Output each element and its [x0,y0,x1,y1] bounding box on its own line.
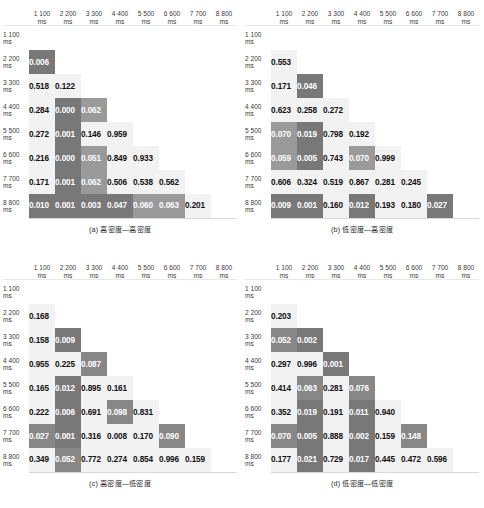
row-header-3: 4 400ms [245,352,271,376]
matrix-cell-blank [453,328,479,352]
col-header-6-unit: ms [185,18,211,25]
matrix-cell-blank [159,122,185,146]
col-header-4-num: 5 500 [380,10,397,17]
matrix-cell-value: 0.060 [133,194,159,218]
matrix-cell-value: 0.076 [349,376,375,400]
col-header-6-num: 7 700 [432,10,449,17]
matrix-cell-blank [29,26,55,51]
col-header-0-unit: ms [271,272,297,279]
matrix-cell-blank [271,26,297,51]
matrix-cell-blank [211,26,237,51]
row-header-2-unit: ms [245,86,271,93]
matrix-cell-blank [427,50,453,74]
matrix-cell-blank [159,376,185,400]
matrix-d-body: 1 100ms2 200ms0.2033 300ms0.0520.0024 40… [245,280,479,473]
matrix-cell-blank [349,74,375,98]
matrix-row: 8 800ms0.0090.0010.1600.0120.1930.1800.0… [245,194,479,218]
matrix-cell-value: 0.940 [375,400,401,424]
col-header-3: 4 400ms [349,258,375,280]
matrix-cell-blank [133,50,159,74]
row-header-2-num: 3 300 [245,79,262,86]
matrix-row: 6 600ms0.2220.0060.6910.0980.831 [3,400,237,424]
col-header-6: 7 700ms [427,4,453,26]
row-header-7-unit: ms [3,206,29,213]
matrix-row: 7 700ms0.0270.0010.3160.0080.1700.090 [3,424,237,448]
row-header-2-num: 3 300 [3,333,20,340]
matrix-cell-value: 0.002 [297,328,323,352]
matrix-cell-blank [453,424,479,448]
matrix-cell-blank [453,352,479,376]
matrix-cell-blank [349,50,375,74]
matrix-cell-value: 0.009 [271,194,297,218]
matrix-cell-blank [211,352,237,376]
row-header-5-num: 6 600 [245,405,262,412]
matrix-row: 8 800ms0.1770.0210.7290.0170.4450.4720.5… [245,448,479,472]
matrix-cell-blank [427,98,453,122]
col-header-7-unit: ms [453,18,479,25]
col-header-4: 5 500ms [375,258,401,280]
row-header-2: 3 300ms [3,74,29,98]
col-header-0: 1 100ms [29,4,55,26]
matrix-cell-blank [349,98,375,122]
matrix-cell-value: 0.063 [297,376,323,400]
matrix-cell-blank [401,352,427,376]
matrix-cell-blank [401,26,427,51]
matrix-cell-blank [185,376,211,400]
matrix-cell-blank [211,98,237,122]
matrix-cell-blank [55,26,81,51]
matrix-cell-value: 0.596 [427,448,453,472]
row-header-6-unit: ms [245,182,271,189]
panel-c: 1 100ms 2 200ms 3 300ms 4 400ms 5 500ms … [0,254,242,508]
matrix-cell-blank [401,74,427,98]
matrix-row: 8 800ms0.0100.0010.0030.0470.0600.0630.2… [3,194,237,218]
row-header-3-num: 4 400 [3,357,20,364]
matrix-cell-value: 0.867 [349,170,375,194]
matrix-cell-blank [453,400,479,424]
col-header-1: 2 200ms [55,4,81,26]
row-header-4: 5 500ms [3,376,29,400]
row-header-3-unit: ms [3,110,29,117]
matrix-cell-value: 0.729 [323,448,349,472]
col-header-5-num: 6 600 [406,264,423,271]
matrix-cell-value: 0.281 [323,376,349,400]
col-header-3-num: 4 400 [112,264,129,271]
col-header-4-unit: ms [133,272,159,279]
col-header-4: 5 500ms [133,4,159,26]
matrix-cell-blank [453,280,479,305]
matrix-cell-blank [185,328,211,352]
matrix-cell-blank [107,50,133,74]
matrix-cell-blank [375,304,401,328]
col-header-2-num: 3 300 [328,264,345,271]
matrix-cell-value: 0.854 [133,448,159,472]
matrix-cell-value: 0.070 [349,146,375,170]
matrix-cell-value: 0.005 [297,424,323,448]
matrix-cell-blank [159,400,185,424]
matrix-cell-blank [375,26,401,51]
col-header-7: 8 800ms [211,258,237,280]
matrix-cell-value: 0.006 [29,50,55,74]
matrix-cell-blank [323,328,349,352]
matrix-cell-value: 0.159 [185,448,211,472]
matrix-cell-blank [375,328,401,352]
row-header-5-unit: ms [3,158,29,165]
col-header-5-unit: ms [401,18,427,25]
matrix-cell-value: 0.010 [29,194,55,218]
panel-d: 1 100ms 2 200ms 3 300ms 4 400ms 5 500ms … [242,254,484,508]
matrix-cell-blank [427,170,453,194]
matrix-row: 1 100ms [245,280,479,305]
col-header-6-num: 7 700 [190,10,207,17]
matrix-a: 1 100ms 2 200ms 3 300ms 4 400ms 5 500ms … [3,4,237,219]
col-header-4-num: 5 500 [138,264,155,271]
matrix-cell-value: 0.180 [401,194,427,218]
matrix-cell-blank [427,352,453,376]
matrix-cell-blank [159,352,185,376]
matrix-cell-blank [401,122,427,146]
row-header-0-unit: ms [245,292,271,299]
matrix-c-header: 1 100ms 2 200ms 3 300ms 4 400ms 5 500ms … [3,258,237,280]
matrix-cell-blank [185,304,211,328]
matrix-cell-blank [375,352,401,376]
row-header-5-num: 6 600 [3,151,20,158]
matrix-cell-blank [375,74,401,98]
col-header-6-num: 7 700 [190,264,207,271]
matrix-cell-blank [159,50,185,74]
